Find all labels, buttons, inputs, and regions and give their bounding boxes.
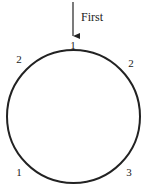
label-upper-right: 2 [128, 57, 134, 69]
label-lower-left: 1 [16, 166, 22, 178]
label-lower-right: 3 [126, 166, 132, 178]
circle-diagram: First 1 2 2 1 3 [0, 0, 147, 188]
label-upper-left: 2 [16, 53, 22, 65]
label-top: 1 [70, 39, 76, 51]
arrow-label: First [81, 10, 104, 24]
cycle-circle [7, 50, 140, 183]
